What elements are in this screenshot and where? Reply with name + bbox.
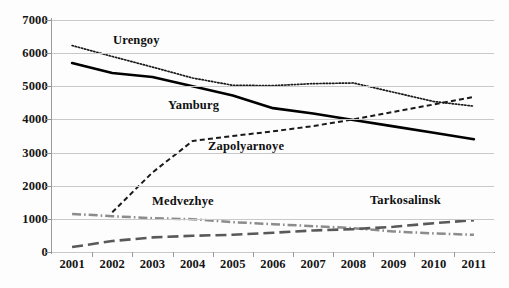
y-axis-tick-label: 1000 bbox=[4, 213, 48, 225]
x-axis-tick-label: 2009 bbox=[371, 258, 417, 271]
plot-area bbox=[52, 20, 494, 252]
y-tick-mark-1000 bbox=[46, 219, 51, 220]
x-tick-mark bbox=[253, 252, 254, 257]
y-tick-mark-5000 bbox=[46, 86, 51, 87]
y-tick-mark-4000 bbox=[46, 119, 51, 120]
x-axis-tick-label: 2006 bbox=[250, 258, 296, 271]
x-axis-tick-label: 2005 bbox=[210, 258, 256, 271]
y-axis-tick-label: 2000 bbox=[4, 180, 48, 192]
x-axis-tick-label: 2011 bbox=[451, 258, 497, 271]
gridline-0 bbox=[52, 252, 494, 253]
y-axis-labels: 01000200030004000500060007000 bbox=[0, 0, 48, 288]
x-axis-tick-label: 2003 bbox=[129, 258, 175, 271]
x-tick-mark bbox=[333, 252, 334, 257]
series-annotation-zapolyarnoye: Zapolyarnoye bbox=[208, 139, 284, 154]
series-annotation-medvezhye: Medvezhye bbox=[152, 194, 214, 209]
x-tick-mark bbox=[293, 252, 294, 257]
y-axis-tick-label: 4000 bbox=[4, 113, 48, 125]
x-tick-mark bbox=[92, 252, 93, 257]
x-tick-mark bbox=[454, 252, 455, 257]
gridline-1000 bbox=[52, 219, 494, 220]
x-axis-tick-label: 2002 bbox=[89, 258, 135, 271]
gridline-4000 bbox=[52, 119, 494, 120]
x-tick-mark bbox=[373, 252, 374, 257]
figure-caption bbox=[0, 278, 509, 288]
x-axis-tick-label: 2004 bbox=[170, 258, 216, 271]
y-axis-tick-label: 3000 bbox=[4, 147, 48, 159]
gridline-6000 bbox=[52, 53, 494, 54]
series-lines bbox=[52, 20, 494, 252]
x-axis-tick-label: 2001 bbox=[49, 258, 95, 271]
gridline-2000 bbox=[52, 186, 494, 187]
x-tick-mark bbox=[173, 252, 174, 257]
y-axis-tick-label: 5000 bbox=[4, 80, 48, 92]
x-tick-mark bbox=[213, 252, 214, 257]
x-tick-mark bbox=[132, 252, 133, 257]
y-tick-mark-0 bbox=[46, 252, 51, 253]
x-axis-tick-label: 2010 bbox=[411, 258, 457, 271]
x-tick-mark bbox=[414, 252, 415, 257]
series-annotation-yamburg: Yamburg bbox=[168, 98, 219, 113]
series-annotation-tarkosalinsk: Tarkosalinsk bbox=[370, 193, 441, 208]
gridline-5000 bbox=[52, 86, 494, 87]
y-axis-tick-label: 0 bbox=[4, 246, 48, 258]
y-axis-tick-label: 6000 bbox=[4, 47, 48, 59]
y-axis-tick-label: 7000 bbox=[4, 14, 48, 26]
series-annotation-urengoy: Urengoy bbox=[113, 33, 160, 48]
series-line-yamburg bbox=[72, 63, 474, 139]
y-tick-mark-2000 bbox=[46, 186, 51, 187]
y-tick-mark-3000 bbox=[46, 153, 51, 154]
x-axis-tick-label: 2008 bbox=[330, 258, 376, 271]
line-chart: 01000200030004000500060007000 2001200220… bbox=[0, 0, 509, 288]
y-tick-mark-7000 bbox=[46, 20, 51, 21]
gridline-7000 bbox=[52, 20, 494, 21]
y-tick-mark-6000 bbox=[46, 53, 51, 54]
x-axis-tick-label: 2007 bbox=[290, 258, 336, 271]
